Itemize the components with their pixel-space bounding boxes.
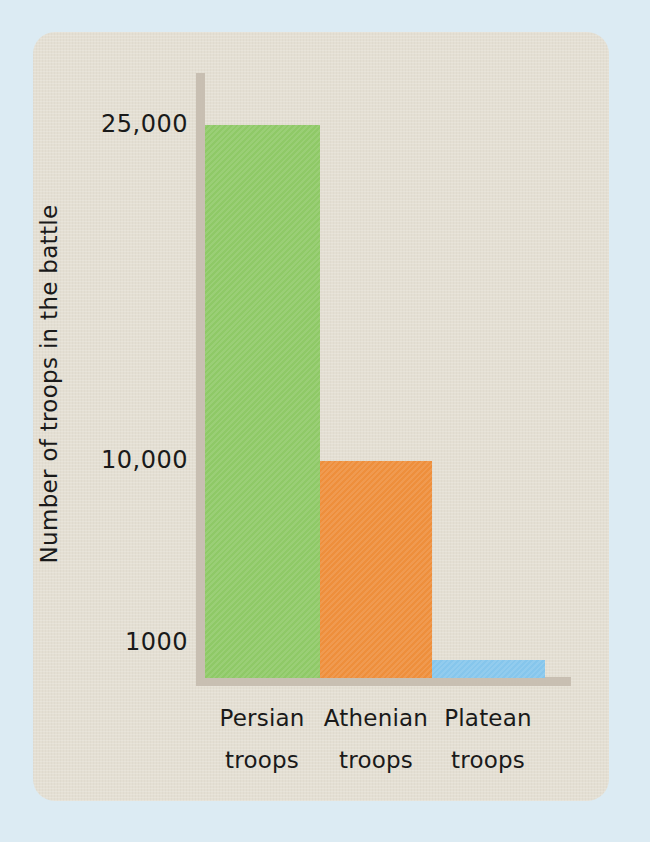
x-axis-label-persian-troops: Persian troops: [198, 697, 326, 781]
x-axis-label-platean-line1: Platean: [424, 697, 552, 739]
x-axis-label-platean-troops: Platean troops: [424, 697, 552, 781]
x-axis-label-athenian-troops: Athenian troops: [312, 697, 440, 781]
bar-athenian-troops[interactable]: [320, 461, 432, 678]
x-axis-line: [196, 677, 571, 686]
bar-platean-troops-fill: [432, 660, 545, 678]
bar-chart-plot-area: Number of troops in the battle 25,000 10…: [0, 0, 650, 842]
bar-persian-troops[interactable]: [205, 125, 320, 678]
chart-page: Number of troops in the battle 25,000 10…: [0, 0, 650, 842]
x-axis-label-athenian-line2: troops: [312, 739, 440, 781]
x-axis-label-athenian-line1: Athenian: [312, 697, 440, 739]
y-axis-tick-label-1000: 1000: [30, 628, 188, 656]
x-axis-label-persian-line2: troops: [198, 739, 326, 781]
y-axis-tick-label-10000: 10,000: [30, 446, 188, 474]
x-axis-label-platean-line2: troops: [424, 739, 552, 781]
y-axis-tick-label-25000: 25,000: [30, 110, 188, 138]
bar-platean-troops[interactable]: [432, 660, 545, 678]
y-axis-line: [196, 73, 205, 685]
bar-athenian-troops-fill: [320, 461, 432, 678]
bar-persian-troops-fill: [205, 125, 320, 678]
x-axis-label-persian-line1: Persian: [198, 697, 326, 739]
y-axis-title: Number of troops in the battle: [36, 184, 62, 584]
